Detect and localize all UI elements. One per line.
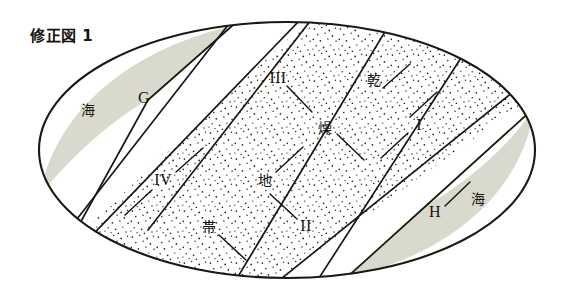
band-label-iii: III <box>270 70 287 86</box>
point-label-h: H <box>429 204 441 220</box>
figure-diagram <box>0 0 569 303</box>
figure-container: 修正図 1 海 G III 乾 燥 I IV 地 帯 II H 海 <box>0 0 569 303</box>
arid-label-so: 燥 <box>318 121 332 135</box>
band-label-i: I <box>416 117 422 133</box>
sea-label-right: 海 <box>471 192 485 206</box>
band-label-ii: II <box>300 218 311 234</box>
sea-label-left: 海 <box>81 103 95 117</box>
figure-title: 修正図 1 <box>30 24 93 45</box>
map-body <box>0 0 569 303</box>
arid-label-tai: 帯 <box>202 220 216 234</box>
point-label-g: G <box>138 90 150 106</box>
arid-label-chi: 地 <box>258 173 272 187</box>
band-label-iv: IV <box>154 172 171 188</box>
arid-label-kan: 乾 <box>367 73 381 87</box>
